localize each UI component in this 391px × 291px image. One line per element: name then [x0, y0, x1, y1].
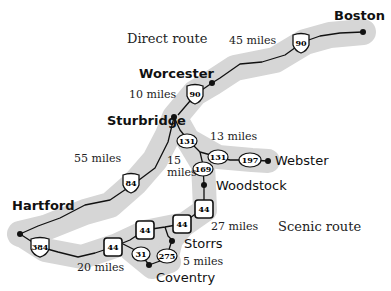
scenic-route-label: Scenic route: [278, 219, 361, 234]
svg-text:131: 131: [179, 136, 196, 146]
city-dot-webster: [265, 158, 271, 164]
svg-text:44: 44: [139, 225, 151, 235]
distance-sturbridge-webster: 13 miles: [210, 130, 257, 143]
city-dot-storrs: [169, 238, 175, 244]
city-dot-coventry: [146, 262, 152, 268]
svg-text:44: 44: [107, 242, 119, 252]
city-dot-hartford: [17, 231, 23, 237]
city-dot-boston: [360, 29, 366, 35]
distance-coventry-hartford: 20 miles: [77, 261, 124, 274]
distance-sturbridge-hartford: 55 miles: [74, 152, 121, 165]
svg-text:169: 169: [195, 164, 212, 174]
svg-text:44: 44: [198, 204, 210, 214]
shield-us44-a: 44: [195, 200, 213, 218]
shield-131-b: 131: [208, 150, 228, 164]
city-label-boston: Boston: [334, 8, 385, 23]
direct-route-label: Direct route: [127, 31, 208, 46]
city-label-sturbridge: Sturbridge: [107, 113, 186, 128]
city-label-woodstock: Woodstock: [216, 178, 287, 193]
distance-boston-worcester: 45 miles: [229, 34, 276, 47]
svg-text:31: 31: [135, 249, 146, 259]
shield-131-a: 131: [177, 134, 197, 148]
svg-text:197: 197: [242, 155, 259, 165]
distance-sturbridge-woodstock-2: miles: [167, 166, 197, 179]
shield-us44-c: 44: [136, 221, 154, 239]
map-canvas: 90 90 84 384 131 131 197 169: [0, 0, 391, 291]
shield-us44-d: 44: [104, 238, 122, 256]
city-label-coventry: Coventry: [156, 270, 215, 285]
city-label-worcester: Worcester: [139, 66, 215, 81]
route-map: 90 90 84 384 131 131 197 169: [0, 0, 391, 291]
city-dot-woodstock: [201, 182, 207, 188]
svg-text:90: 90: [295, 38, 307, 48]
svg-text:131: 131: [210, 152, 227, 162]
distance-storrs-coventry: 5 miles: [183, 255, 223, 268]
distance-woodstock-storrs: 27 miles: [211, 220, 258, 233]
shield-197: 197: [239, 153, 261, 167]
shield-275: 275: [157, 249, 177, 263]
shield-i84: 84: [123, 174, 139, 194]
shield-us44-b: 44: [173, 215, 191, 233]
city-label-storrs: Storrs: [184, 236, 223, 251]
svg-text:90: 90: [189, 89, 201, 99]
svg-text:44: 44: [176, 219, 188, 229]
shield-i90-west: 90: [187, 85, 203, 105]
city-label-webster: Webster: [275, 153, 329, 168]
shield-31: 31: [132, 247, 150, 261]
svg-text:275: 275: [159, 251, 176, 261]
svg-text:384: 384: [32, 242, 49, 252]
svg-text:84: 84: [125, 178, 137, 188]
distance-worcester-sturbridge: 10 miles: [129, 88, 176, 101]
city-label-hartford: Hartford: [12, 198, 75, 213]
shield-i384: 384: [31, 238, 49, 258]
shield-i90-east: 90: [293, 34, 309, 54]
